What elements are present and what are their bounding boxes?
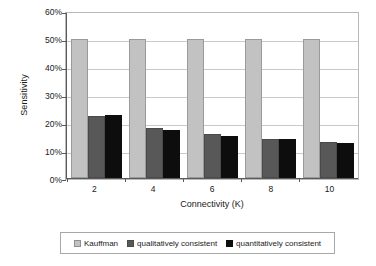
- y-axis-tick-label: 10%: [45, 147, 62, 157]
- legend-item-label: Kauffman: [84, 239, 118, 248]
- bar[interactable]: [303, 39, 320, 178]
- y-axis-tick-label: 40%: [45, 63, 62, 73]
- x-axis-line: [66, 178, 358, 179]
- bar-group: [241, 13, 299, 178]
- bar[interactable]: [105, 115, 122, 178]
- legend-item-label: qualitatively consistent: [137, 239, 217, 248]
- bar[interactable]: [337, 143, 354, 178]
- bar-group: [299, 13, 357, 178]
- bar-chart-figure: Sensitivity 0%10%20%30%40%50%60% 246810 …: [0, 0, 376, 266]
- bar[interactable]: [187, 39, 204, 178]
- bar-group: [125, 13, 183, 178]
- legend-swatch-icon: [226, 240, 233, 247]
- y-axis-title-text: Sensitivity: [19, 74, 29, 116]
- bar-group: [67, 13, 125, 178]
- x-axis-tick-label: 10: [300, 184, 359, 198]
- y-axis-tick-label: 20%: [45, 119, 62, 129]
- legend-item-label: quantitatively consistent: [236, 239, 321, 248]
- x-axis-tick-labels: 246810: [65, 184, 359, 198]
- y-axis-tick-mark: [62, 180, 66, 181]
- bar[interactable]: [163, 130, 180, 178]
- y-axis-tick-label: 0%: [50, 175, 62, 185]
- x-axis-tick-label: 8: [241, 184, 300, 198]
- bar[interactable]: [320, 142, 337, 178]
- x-axis-title-text: Connectivity (K): [180, 199, 244, 209]
- legend-item[interactable]: quantitatively consistent: [226, 239, 321, 248]
- bar[interactable]: [129, 39, 146, 178]
- legend-swatch-icon: [74, 240, 81, 247]
- bar-group-bars: [241, 13, 299, 178]
- chart-legend: Kauffmanqualitatively consistentquantita…: [60, 232, 335, 254]
- bar-group: [183, 13, 241, 178]
- x-axis-title: Connectivity (K): [65, 199, 359, 209]
- bar[interactable]: [88, 116, 105, 178]
- x-axis-tick-label: 2: [65, 184, 124, 198]
- y-axis-tick-labels: 0%10%20%30%40%50%60%: [30, 12, 62, 180]
- y-axis-tick-label: 50%: [45, 35, 62, 45]
- legend-item[interactable]: qualitatively consistent: [127, 239, 217, 248]
- bar-groups: [67, 13, 357, 178]
- y-axis-line: [66, 13, 67, 179]
- plot-area: [65, 12, 359, 180]
- y-axis-tick-label: 60%: [45, 7, 62, 17]
- legend-item[interactable]: Kauffman: [74, 239, 118, 248]
- bar[interactable]: [71, 39, 88, 178]
- x-axis-tick-label: 6: [183, 184, 242, 198]
- bar[interactable]: [146, 128, 163, 178]
- bar-group-bars: [67, 13, 125, 178]
- bar[interactable]: [245, 39, 262, 178]
- x-axis-tick-label: 4: [124, 184, 183, 198]
- y-axis-tick-label: 30%: [45, 91, 62, 101]
- bar-group-bars: [299, 13, 357, 178]
- bar[interactable]: [279, 139, 296, 178]
- bar[interactable]: [221, 136, 238, 178]
- bar-group-bars: [125, 13, 183, 178]
- legend-swatch-icon: [127, 240, 134, 247]
- bar[interactable]: [204, 134, 221, 178]
- bar-group-bars: [183, 13, 241, 178]
- bar[interactable]: [262, 139, 279, 178]
